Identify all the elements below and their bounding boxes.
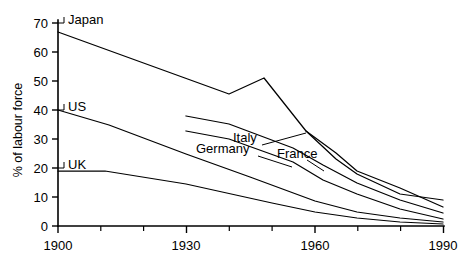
x-axis-ticks (58, 226, 444, 233)
x-tick-label-1990: 1990 (429, 238, 458, 253)
series-label-germany: Germany (196, 141, 250, 156)
y-axis-title: % of labour force (11, 83, 25, 178)
chart-plot-area: 0 10 20 30 40 50 60 70 1900 1930 1960 (0, 0, 472, 265)
series-line-us (58, 110, 443, 222)
series-label-france: France (277, 146, 317, 161)
leader-line-us (58, 104, 64, 110)
y-axis-ticks (52, 23, 58, 226)
series-line-japan (58, 32, 443, 200)
leader-line-japan (58, 17, 64, 23)
y-tick-label-60: 60 (34, 45, 48, 60)
y-tick-label-30: 30 (34, 132, 48, 147)
y-tick-label-0: 0 (41, 219, 48, 234)
leader-line-france (307, 160, 324, 171)
series-line-italy (306, 131, 443, 207)
series-label-japan: Japan (68, 12, 103, 27)
x-tick-label-1900: 1900 (44, 238, 73, 253)
y-tick-label-20: 20 (34, 161, 48, 176)
x-tick-label-1930: 1930 (172, 238, 201, 253)
line-chart-labour-force: 0 10 20 30 40 50 60 70 1900 1930 1960 (0, 0, 472, 265)
y-tick-labels: 0 10 20 30 40 50 60 70 (34, 16, 48, 234)
leader-line-uk (58, 162, 64, 168)
series-labels: Japan US UK Italy Germany France (68, 12, 317, 172)
y-tick-label-70: 70 (34, 16, 48, 31)
y-tick-label-40: 40 (34, 103, 48, 118)
x-tick-label-1960: 1960 (301, 238, 330, 253)
x-tick-labels: 1900 1930 1960 1990 (44, 238, 458, 253)
series-label-us: US (68, 99, 86, 114)
series-label-uk: UK (68, 157, 86, 172)
y-tick-label-10: 10 (34, 190, 48, 205)
y-tick-label-50: 50 (34, 74, 48, 89)
